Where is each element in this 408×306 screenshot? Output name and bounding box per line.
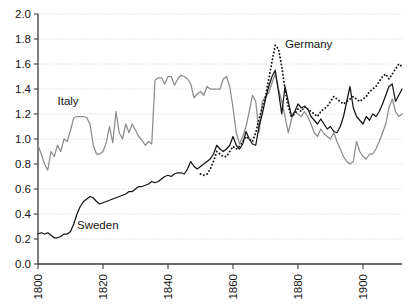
x-tick-label: 1800 [32,274,44,300]
y-tick-label: 0.2 [15,233,31,245]
chart-background [0,0,408,306]
annotation-italy: Italy [58,95,79,107]
y-tick-label: 0.4 [15,208,32,220]
x-tick-label: 1880 [292,274,304,300]
x-tick-label: 1860 [227,274,239,300]
x-tick-label: 1840 [162,274,174,300]
y-tick-label: 0.0 [15,258,31,270]
y-tick-label: 2.0 [15,8,31,20]
x-tick-label: 1900 [357,274,369,300]
annotation-germany: Germany [285,38,333,50]
x-tick-label: 1820 [97,274,109,300]
y-tick-label: 1.6 [15,58,31,70]
chart-canvas: 0.00.20.40.60.81.01.21.41.61.82.0 180018… [0,0,408,306]
annotation-sweden: Sweden [77,219,119,231]
y-tick-label: 1.4 [15,83,32,95]
y-tick-label: 0.8 [15,158,31,170]
line-chart: 0.00.20.40.60.81.01.21.41.61.82.0 180018… [0,0,408,306]
y-tick-label: 1.2 [15,108,31,120]
y-tick-label: 1.0 [15,133,31,145]
y-tick-label: 0.6 [15,183,31,195]
y-tick-label: 1.8 [15,33,31,45]
